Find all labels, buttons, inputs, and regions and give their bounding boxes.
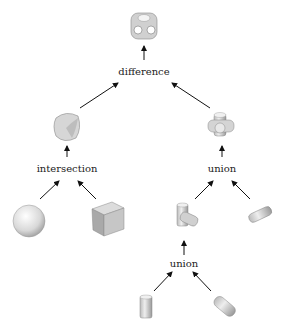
cross-union-icon: [208, 113, 234, 137]
sphere-icon: [13, 205, 45, 237]
tilted-cylinder-icon: [212, 294, 237, 318]
difference-label: difference: [118, 66, 169, 77]
arrow: [40, 181, 59, 199]
arrow: [193, 272, 211, 291]
union-label-right: union: [208, 163, 237, 174]
arrow: [232, 181, 250, 199]
rounded-cube-icon: [54, 113, 80, 140]
intersection-label: intersection: [37, 163, 98, 174]
vertical-cylinder-icon: [140, 295, 152, 318]
arrow: [78, 181, 96, 199]
arrow: [195, 181, 213, 199]
difference-result-icon: [131, 13, 157, 39]
arrow: [172, 83, 210, 108]
two-cylinder-union-icon: [177, 203, 199, 227]
cube-icon: [92, 202, 124, 236]
horizontal-cylinder-icon: [247, 205, 273, 223]
arrow: [154, 272, 172, 291]
arrow: [80, 83, 118, 108]
union-label-bottom: union: [170, 258, 199, 269]
